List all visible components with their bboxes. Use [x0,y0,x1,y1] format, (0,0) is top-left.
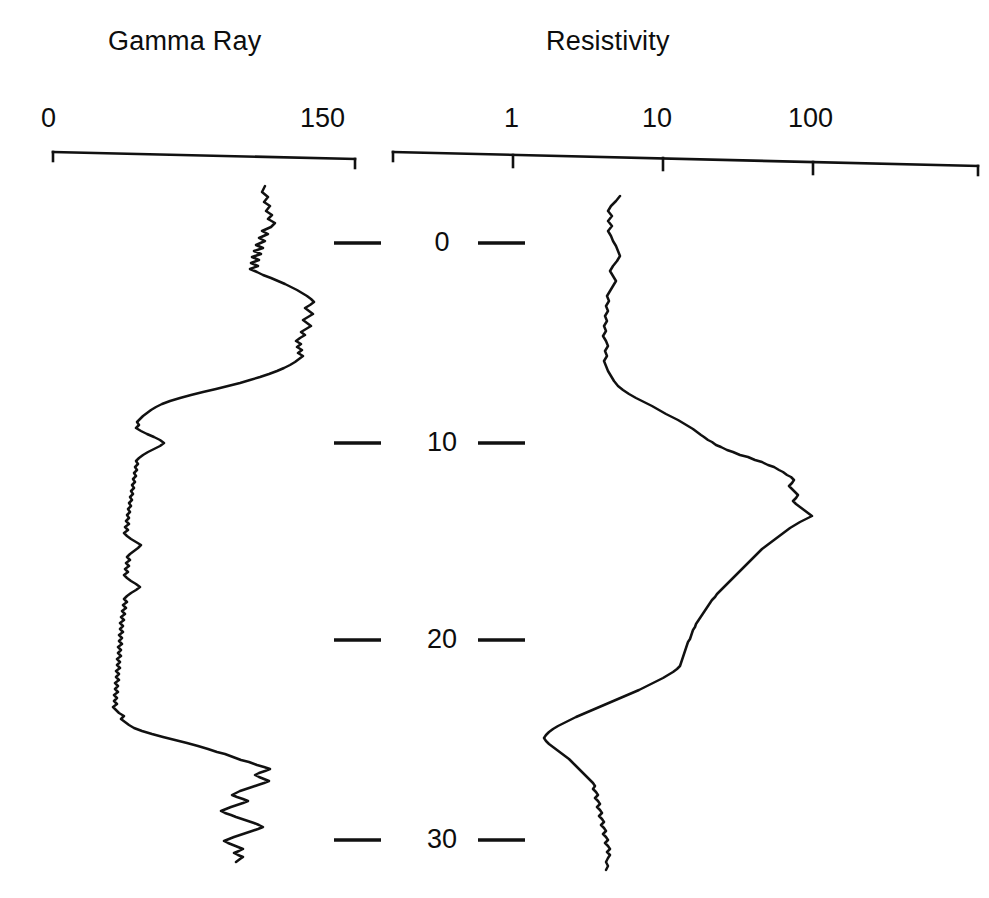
gamma-ray-curve [113,186,314,862]
depth-tick-marks [334,243,525,840]
gamma-ray-scale-bar [53,152,355,168]
log-plot-canvas [0,0,989,898]
resistivity-curve [544,196,812,870]
resistivity-scale-bar [393,152,978,175]
well-log-figure: Gamma Ray Resistivity 0 150 1 10 100 0 1… [0,0,989,898]
